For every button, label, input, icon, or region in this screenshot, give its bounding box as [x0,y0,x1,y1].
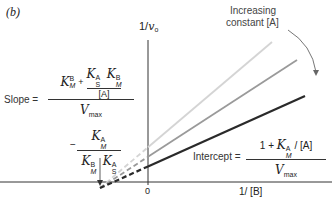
increasing-A-annotation: Increasing constant [A] [226,5,279,29]
x-intercept-sign: − [70,139,76,150]
x-intercept-formula: KAM KBM KAS [77,126,121,175]
annotation-arrowhead [313,70,319,76]
intercept-label: Intercept = [193,151,241,162]
origin-label: 0 [145,186,150,196]
line-low-A [148,42,272,147]
intercept-formula: 1 + KAM / [A] Vmax [246,138,326,178]
y-axis-label: 1/vo [139,20,158,33]
annotation-arrow [288,30,316,72]
slope-label: Slope = [4,94,38,105]
x-axis-label: 1/ [B] [239,186,262,197]
slope-formula: KBM + KAS KBM [A] Vmax [48,64,134,118]
